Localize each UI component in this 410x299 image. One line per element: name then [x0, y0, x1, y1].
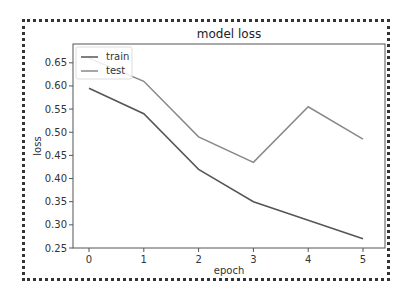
y-tick-label: 0.30: [45, 219, 67, 230]
x-tick-label: 1: [141, 254, 147, 265]
x-tick-label: 5: [360, 254, 366, 265]
legend: train test: [76, 47, 132, 79]
y-tick-label: 0.45: [45, 150, 67, 161]
x-tick-label: 0: [86, 254, 92, 265]
legend-label-train: train: [106, 51, 129, 62]
y-axis-ticks: 0.250.300.350.400.450.500.550.600.65: [45, 57, 73, 253]
chart-title: model loss: [197, 27, 261, 41]
y-tick-label: 0.60: [45, 80, 67, 91]
y-tick-label: 0.25: [45, 243, 67, 254]
y-tick-label: 0.55: [45, 104, 67, 115]
x-tick-label: 4: [305, 254, 311, 265]
loss-chart: model loss 0.250.300.350.400.450.500.550…: [0, 0, 410, 299]
x-tick-label: 3: [250, 254, 256, 265]
x-axis-label: epoch: [214, 265, 244, 276]
y-tick-label: 0.50: [45, 127, 67, 138]
legend-label-test: test: [106, 65, 125, 76]
y-tick-label: 0.35: [45, 196, 67, 207]
x-tick-label: 2: [195, 254, 201, 265]
y-tick-label: 0.40: [45, 173, 67, 184]
y-axis-label: loss: [32, 136, 43, 155]
x-axis-ticks: 012345: [86, 248, 366, 265]
y-tick-label: 0.65: [45, 57, 67, 68]
